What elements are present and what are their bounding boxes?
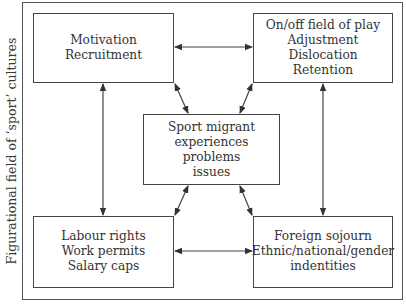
box-line: Dislocation [288,48,357,63]
box-line: Adjustment [288,33,359,48]
box-sport-migrant-experiences: Sport migrant experiences problems issue… [143,114,280,185]
side-axis-label: Figurational field of ‘sport’ cultures [4,38,19,265]
box-foreign-sojourn: Foreign sojourn Ethnic/national/gender i… [253,216,393,288]
box-line: Recruitment [65,48,142,63]
box-line: issues [193,165,231,180]
box-line: Ethnic/national/gender [252,244,394,259]
box-field-of-play: On/off field of play Adjustment Dislocat… [253,13,393,83]
box-line: Retention [293,63,353,78]
box-line: Work permits [62,244,146,259]
box-line: Labour rights [61,229,146,244]
box-line: Motivation [70,33,137,48]
box-line: problems [183,150,241,165]
box-line: Foreign sojourn [274,229,372,244]
box-line: Sport migrant [168,120,255,135]
box-labour-rights: Labour rights Work permits Salary caps [33,216,174,288]
box-line: indentities [290,259,356,274]
box-line: Salary caps [68,259,140,274]
box-line: On/off field of play [266,18,380,33]
box-motivation-recruitment: Motivation Recruitment [33,13,174,83]
box-line: experiences [174,135,248,150]
